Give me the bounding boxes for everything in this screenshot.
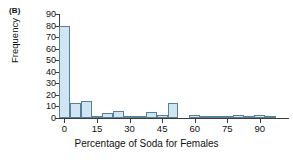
histogram-bar xyxy=(157,115,168,118)
histogram-bar xyxy=(92,116,103,118)
x-axis-line xyxy=(59,118,289,119)
histogram-bar xyxy=(189,115,200,118)
y-axis-title: Frequency xyxy=(9,5,20,77)
x-axis-tick-mark xyxy=(260,119,261,123)
x-axis-tick-label: 60 xyxy=(189,124,200,134)
histogram-bar xyxy=(70,103,81,118)
histogram-bar xyxy=(146,112,157,118)
x-axis-tick-mark xyxy=(97,119,98,123)
x-axis-tick-label: 45 xyxy=(157,124,168,134)
histogram-bar xyxy=(222,116,233,118)
histogram-bar xyxy=(265,116,276,118)
x-axis-tick-label: 30 xyxy=(124,124,135,134)
x-axis-tick-mark xyxy=(64,119,65,123)
plot-area xyxy=(59,14,287,118)
histogram-bar xyxy=(254,115,265,118)
x-axis-tick-label: 75 xyxy=(222,124,233,134)
histogram-bar xyxy=(81,101,92,118)
histogram-bar xyxy=(211,116,222,118)
histogram-bar xyxy=(200,116,211,118)
x-axis-tick-label: 15 xyxy=(92,124,103,134)
histogram-bar xyxy=(244,116,255,118)
x-axis-tick-labels: 0153045607590 xyxy=(0,124,293,136)
histogram-bar xyxy=(135,116,146,118)
x-axis-tick-label: 0 xyxy=(62,124,67,134)
histogram-bar xyxy=(124,116,135,118)
x-axis-tick-label: 90 xyxy=(255,124,266,134)
histogram-figure: (B) Frequency 0102030405060708090 015304… xyxy=(0,0,293,160)
histogram-bar xyxy=(102,113,113,118)
histogram-bar xyxy=(59,26,70,118)
y-axis-tick-labels: 0102030405060708090 xyxy=(36,12,56,124)
x-axis-title: Percentage of Soda for Females xyxy=(0,138,293,149)
x-axis-tick-mark xyxy=(195,119,196,123)
x-axis-tick-mark xyxy=(130,119,131,123)
x-axis-tick-mark xyxy=(227,119,228,123)
histogram-bar xyxy=(168,103,179,118)
histogram-bar xyxy=(113,111,124,118)
x-axis-tick-mark xyxy=(162,119,163,123)
histogram-bar xyxy=(233,115,244,118)
